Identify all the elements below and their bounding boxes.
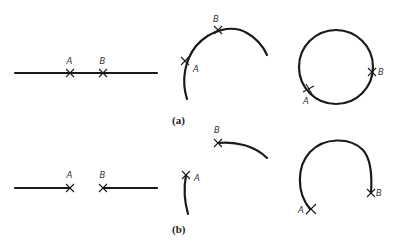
caption-a: (a) <box>172 114 185 127</box>
label-point-b: B <box>214 125 220 135</box>
label-point-b: B <box>213 14 219 24</box>
arc-curve-upper <box>218 143 267 158</box>
panel-a-circle: A B <box>299 30 384 106</box>
panel-a-arc: A B <box>181 14 267 99</box>
label-point-a: A <box>297 205 304 215</box>
cross-marker-a <box>306 204 316 214</box>
label-point-b: B <box>376 188 382 198</box>
break-diagram: A B A B <box>0 0 396 246</box>
circle-curve <box>299 30 373 104</box>
label-point-a: A <box>302 96 309 106</box>
open-circle-curve <box>300 140 372 209</box>
label-point-b: B <box>100 170 106 180</box>
panel-b-circle: A B <box>297 140 382 215</box>
panel-b: A B A B <box>15 125 382 236</box>
label-point-a: A <box>193 173 200 183</box>
panel-a-straight-line: A B <box>15 56 157 77</box>
label-point-a: A <box>66 56 73 66</box>
panel-b-straight-line: A B <box>15 170 157 192</box>
label-point-a: A <box>192 64 199 74</box>
label-point-b: B <box>100 56 106 66</box>
panel-a: A B A B <box>15 14 384 127</box>
label-point-b: B <box>378 67 384 77</box>
arc-curve-lower <box>185 175 188 214</box>
label-point-a: A <box>66 170 73 180</box>
caption-b: (b) <box>172 223 186 236</box>
panel-b-arc: A B <box>182 125 267 214</box>
